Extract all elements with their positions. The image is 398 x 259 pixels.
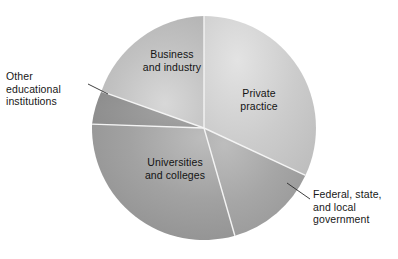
slice-label-federal-state-local-government: Federal, state, and local government <box>313 188 397 226</box>
slice-label-private-practice: Private practice <box>221 87 297 112</box>
slice-label-other-educational-institutions: Other educational institutions <box>6 70 90 108</box>
slice-label-universities-and-colleges: Universities and colleges <box>123 156 227 181</box>
pie-chart: Business and industry Private practice U… <box>0 0 398 259</box>
slice-label-business-and-industry: Business and industry <box>126 48 218 73</box>
